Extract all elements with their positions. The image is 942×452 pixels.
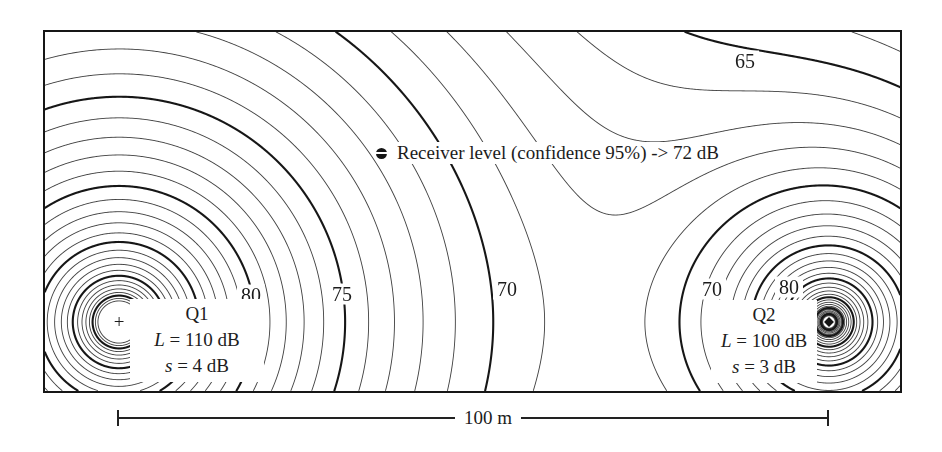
q2-level-value: = 100 dB — [731, 330, 807, 351]
q1-sigma-text: s = 4 dB — [134, 353, 260, 379]
receiver-point-icon — [376, 148, 387, 159]
q2-name: Q2 — [715, 302, 813, 328]
scale-bar-right-tick — [827, 410, 829, 426]
contour-value-label: 70 — [698, 279, 726, 300]
figure: 807570708065 + Q1 L = 110 dB s = 4 dB Q2… — [0, 0, 942, 452]
q1-name: Q1 — [134, 301, 260, 327]
q1-level-value: = 110 dB — [165, 329, 240, 350]
q2-level-text: L = 100 dB — [715, 328, 813, 354]
q2-label-box: Q2 L = 100 dB s = 3 dB — [711, 300, 817, 383]
q2-sigma-value: = 3 dB — [739, 356, 796, 377]
q1-sigma-value: = 4 dB — [172, 355, 229, 376]
scale-bar-left-tick — [117, 410, 119, 426]
q1-level-text: L = 110 dB — [134, 327, 260, 353]
contour-value-label: 70 — [493, 279, 521, 300]
receiver-label: Receiver level (confidence 95%) -> 72 dB — [394, 142, 722, 164]
q2-sigma-text: s = 3 dB — [715, 354, 813, 380]
q1-level-symbol: L — [154, 329, 165, 350]
scale-bar-label: 100 m — [455, 407, 521, 429]
contour-value-label: 75 — [328, 284, 356, 305]
contour-value-label: 80 — [775, 277, 803, 298]
q2-level-symbol: L — [721, 330, 732, 351]
contour-value-label: 65 — [731, 51, 759, 72]
q1-source-plus-marker: + — [114, 312, 125, 331]
q1-label-box: Q1 L = 110 dB s = 4 dB — [130, 299, 264, 382]
receiver: Receiver level (confidence 95%) -> 72 dB — [376, 142, 722, 164]
